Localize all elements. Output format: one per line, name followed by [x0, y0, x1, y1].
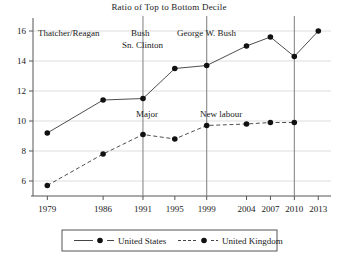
data-point-united-kingdom [268, 120, 274, 126]
data-point-united-states [316, 28, 322, 34]
data-point-united-states [45, 130, 51, 136]
data-point-united-states [100, 97, 106, 103]
series-line-united-kingdom [47, 123, 294, 186]
data-point-united-states [268, 34, 274, 40]
x-tick-label: 1999 [198, 204, 217, 214]
data-point-united-kingdom [292, 120, 298, 126]
annotation-label: Sn. Clinton [122, 40, 164, 50]
legend-label-1[interactable]: United Kingdom [222, 236, 283, 246]
x-tick-label: 1979 [38, 204, 57, 214]
chart-container: Ratio of Top to Bottom Decile 6810121416… [0, 0, 338, 258]
data-point-united-states [140, 96, 146, 102]
data-point-united-states [204, 63, 210, 69]
y-tick-label: 6 [22, 176, 27, 186]
x-tick-label: 1986 [94, 204, 113, 214]
legend-marker-0 [97, 238, 103, 244]
annotation-label: Thatcher/Reagan [38, 28, 100, 38]
y-tick-label: 16 [17, 26, 27, 36]
data-point-united-states [244, 43, 250, 49]
x-tick-label: 2007 [261, 204, 280, 214]
data-point-united-kingdom [244, 121, 250, 127]
data-point-united-states [292, 54, 298, 60]
y-tick-label: 10 [17, 116, 27, 126]
chart-plot-area: 6810121416197919861991199519992004200720… [0, 0, 338, 258]
x-tick-label: 1995 [166, 204, 185, 214]
y-tick-label: 8 [22, 146, 27, 156]
x-tick-label: 2013 [309, 204, 328, 214]
x-tick-label: 2004 [238, 204, 257, 214]
data-point-united-kingdom [45, 183, 51, 189]
series-line-united-states [47, 31, 318, 133]
legend-label-0[interactable]: United States [118, 236, 167, 246]
data-point-united-kingdom [204, 123, 210, 129]
annotation-label: Bush [131, 28, 150, 38]
data-point-united-states [172, 66, 178, 72]
annotation-label: New labour [200, 109, 242, 119]
x-tick-label: 2010 [285, 204, 304, 214]
data-point-united-kingdom [100, 151, 106, 157]
legend-marker-1 [201, 238, 207, 244]
data-point-united-kingdom [172, 136, 178, 142]
x-tick-label: 1991 [134, 204, 152, 214]
annotation-label: George W. Bush [177, 28, 237, 38]
y-tick-label: 14 [17, 56, 27, 66]
data-point-united-kingdom [140, 132, 146, 138]
annotation-label: Major [136, 109, 158, 119]
y-tick-label: 12 [17, 86, 26, 96]
